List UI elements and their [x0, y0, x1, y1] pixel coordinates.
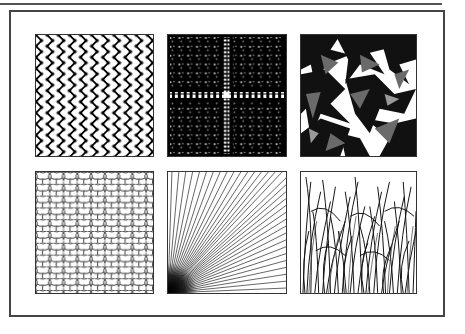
panel-radial-lines: Radial lines texture: [167, 171, 287, 294]
fourier-texture-image: [168, 35, 286, 156]
panel-tessellation: Tessellation texture: [35, 171, 154, 294]
figure-frame: Basket-weave texture Fourier spectr: [9, 10, 445, 317]
weave-texture-image: [36, 35, 153, 156]
panel-grass: Grass texture: [300, 171, 417, 294]
tessellation-texture-image: [36, 172, 153, 293]
panel-fourier: Fourier spectrum texture: [167, 34, 287, 157]
leaves-texture-image: [301, 35, 416, 156]
grass-texture-image: [301, 172, 416, 293]
panel-leaves: Leaves texture: [300, 34, 417, 157]
radial-lines-texture-image: [168, 172, 286, 293]
panel-weave: Basket-weave texture: [35, 34, 154, 157]
top-rule: [0, 3, 442, 5]
